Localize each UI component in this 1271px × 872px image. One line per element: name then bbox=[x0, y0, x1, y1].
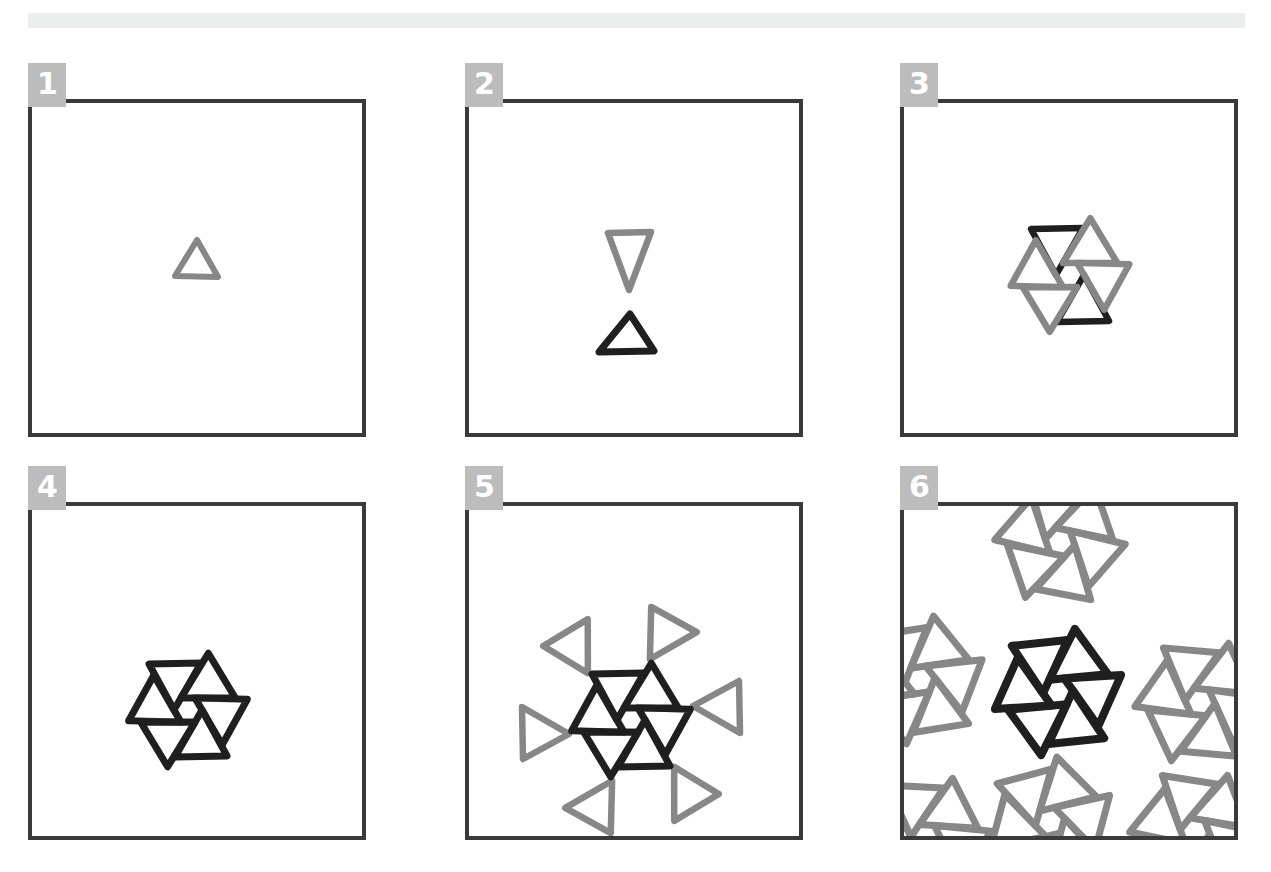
panel-2-frame bbox=[465, 99, 803, 437]
panel-4: 4 bbox=[28, 466, 366, 846]
panel-1: 1 bbox=[28, 63, 366, 443]
panel-3: 3 bbox=[900, 63, 1238, 443]
panel-1-number-badge: 1 bbox=[28, 63, 66, 107]
panel-5-number-badge: 5 bbox=[465, 466, 503, 510]
panel-1-artwork bbox=[28, 99, 366, 437]
panel-5: 5 bbox=[465, 466, 803, 846]
panel-2-number-badge: 2 bbox=[465, 63, 503, 107]
panel-3-number-badge: 3 bbox=[900, 63, 938, 107]
panel-5-frame bbox=[465, 502, 803, 840]
panel-6-artwork bbox=[900, 502, 1238, 840]
panel-2: 2 bbox=[465, 63, 803, 443]
panel-4-artwork bbox=[28, 502, 366, 840]
panel-1-frame bbox=[28, 99, 366, 437]
panel-3-artwork bbox=[900, 99, 1238, 437]
panel-4-number-badge: 4 bbox=[28, 466, 66, 510]
panel-2-artwork bbox=[465, 99, 803, 437]
panel-grid: 1 2 3 bbox=[0, 0, 1271, 872]
panel-4-frame bbox=[28, 502, 366, 840]
panel-6-number-badge: 6 bbox=[900, 466, 938, 510]
panel-6-frame bbox=[900, 502, 1238, 840]
panel-5-artwork bbox=[465, 502, 803, 840]
panel-6: 6 bbox=[900, 466, 1238, 846]
panel-3-frame bbox=[900, 99, 1238, 437]
